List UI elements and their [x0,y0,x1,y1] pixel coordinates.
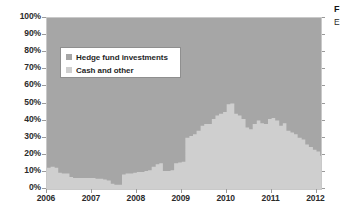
side-caption-subtitle: E [334,17,348,28]
legend-swatch-icon [66,54,72,60]
y-axis-tick-label: 60% [0,80,41,89]
x-axis-tick-label: 2010 [206,193,246,203]
x-axis-tick-label: 2006 [26,193,66,203]
x-axis-tick-label: 2012 [296,193,336,203]
x-axis-tick-label: 2007 [71,193,111,203]
plot-area [46,17,322,190]
y-axis-tick-label: 100% [0,12,41,21]
x-axis-tick-label: 2011 [251,193,291,203]
legend-label: Cash and other [76,66,134,75]
chart-legend: Hedge fund investments Cash and other [60,47,181,78]
x-axis-tick-mark [136,189,137,193]
y-axis-tick-label: 80% [0,46,41,55]
side-caption: F E [334,4,348,44]
legend-item-cash-and-other: Cash and other [66,64,180,76]
x-axis-tick-mark [271,189,272,193]
legend-item-hedge-fund-investments: Hedge fund investments [66,51,180,63]
y-axis: 0%10%20%30%40%50%60%70%80%90%100% [0,0,41,217]
side-caption-title: F [334,4,348,15]
stacked-area-chart: 0%10%20%30%40%50%60%70%80%90%100% Hedge … [0,0,330,217]
y-axis-tick-label: 10% [0,166,41,175]
y-axis-tick-label: 50% [0,98,41,107]
y-axis-tick-label: 30% [0,132,41,141]
x-axis-tick-mark [46,189,47,193]
legend-label: Hedge fund investments [76,53,168,62]
x-axis-tick-mark [181,189,182,193]
y-axis-tick-label: 40% [0,115,41,124]
y-axis-tick-label: 90% [0,29,41,38]
x-axis: 2006200720082009201020112012 [0,191,348,211]
legend-swatch-icon [66,67,72,73]
y-axis-tick-label: 20% [0,149,41,158]
x-axis-tick-mark [316,189,317,193]
chart-screenshot: 0%10%20%30%40%50%60%70%80%90%100% Hedge … [0,0,348,217]
area-series-svg [47,18,321,189]
x-axis-tick-mark [226,189,227,193]
x-axis-tick-label: 2009 [161,193,201,203]
y-axis-tick-label: 70% [0,63,41,72]
x-axis-tick-mark [91,189,92,193]
x-axis-tick-label: 2008 [116,193,156,203]
